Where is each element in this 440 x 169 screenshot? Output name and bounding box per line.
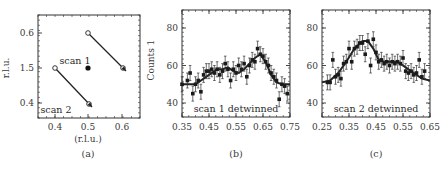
data-point-marker (363, 52, 367, 56)
data-point-marker (196, 79, 200, 83)
plot-frame (322, 10, 430, 117)
open-circle-marker (53, 66, 58, 71)
scan-2-arrow (55, 68, 92, 107)
data-point-marker (275, 79, 279, 83)
y-tick-label: 60 (167, 61, 179, 71)
x-tick-label: 0.55 (393, 122, 413, 132)
data-point-marker (194, 82, 198, 86)
panel-label: (c) (370, 148, 383, 159)
data-point-marker (199, 90, 203, 94)
data-point-marker (283, 84, 287, 88)
panel-label: (a) (81, 148, 94, 159)
scan-annotation: scan 1 detwinned (194, 103, 279, 114)
x-tick-label: 0.4 (48, 122, 63, 132)
y-axis-label: Counts 1 (146, 40, 156, 81)
data-point-marker (272, 75, 276, 79)
x-axis-label: (r.l.u.) (74, 134, 102, 144)
data-point-marker (385, 60, 389, 64)
data-point-marker (186, 79, 190, 83)
data-point-marker (232, 67, 236, 71)
data-point-marker (409, 69, 413, 73)
data-point-marker (350, 60, 354, 64)
data-point-marker (245, 75, 249, 79)
data-point-marker (221, 69, 225, 73)
y-tick-label: 40 (307, 98, 319, 108)
y-tick-label: 1.5 (20, 63, 35, 73)
data-point-marker (269, 71, 273, 75)
data-point-marker (277, 97, 281, 101)
data-point-marker (369, 64, 373, 68)
data-point-marker (380, 58, 384, 62)
data-point-marker (331, 58, 335, 62)
data-point-marker (372, 37, 376, 41)
x-tick-label: 0.35 (172, 122, 192, 132)
data-point-marker (202, 73, 206, 77)
data-point-marker (226, 67, 230, 71)
y-tick-label: 40 (167, 98, 179, 108)
data-point-marker (218, 73, 222, 77)
data-point-marker (215, 67, 219, 71)
data-point-marker (191, 92, 195, 96)
data-point-marker (240, 67, 244, 71)
y-tick-label: 0.6 (20, 28, 35, 38)
data-point-marker (286, 92, 290, 96)
open-circle-marker (86, 31, 91, 36)
data-point-marker (399, 62, 403, 66)
data-point-marker (213, 71, 217, 75)
data-point-marker (256, 47, 260, 51)
scan-2-label: scan 2 (40, 104, 71, 115)
data-point-marker (223, 62, 227, 66)
data-point-marker (420, 75, 424, 79)
y-tick-label: 80 (167, 23, 179, 33)
data-point-marker (248, 64, 252, 68)
scan-1-label: scan 1 (59, 55, 90, 66)
data-point-marker (328, 81, 332, 85)
y-axis-label: r.l.u. (1, 58, 11, 79)
data-point-marker (267, 64, 271, 68)
figure: 0.40.50.60.61.50.4r.l.u.(r.l.u.)(a)scan … (0, 0, 440, 169)
data-point-marker (336, 73, 340, 77)
y-tick-label: 60 (307, 61, 319, 71)
panel-b: 0.350.450.550.650.75406080Counts 1scan 1… (146, 10, 300, 159)
panel-a: 0.40.50.60.61.50.4r.l.u.(r.l.u.)(a)scan … (1, 15, 140, 159)
data-point-marker (253, 60, 257, 64)
x-tick-label: 0.45 (199, 122, 219, 132)
data-point-marker (180, 82, 184, 86)
data-point-marker (401, 56, 405, 60)
panel-label: (b) (229, 148, 243, 159)
y-tick-label: 0.4 (20, 98, 35, 108)
data-point-marker (210, 67, 214, 71)
data-point-marker (345, 60, 349, 64)
x-tick-label: 0.25 (312, 122, 332, 132)
data-point-marker (423, 69, 427, 73)
scan-1-arrow (88, 33, 126, 71)
x-tick-label: 0.5 (81, 122, 96, 132)
scan-1-point (85, 65, 90, 70)
scan-annotation: scan 2 detwinned (334, 103, 419, 114)
data-point-marker (417, 58, 421, 62)
data-point-marker (415, 71, 419, 75)
x-tick-label: 0.35 (339, 122, 359, 132)
data-point-marker (347, 47, 351, 51)
data-point-marker (388, 64, 392, 68)
data-point-marker (242, 62, 246, 66)
data-point-marker (374, 51, 378, 55)
data-point-marker (366, 39, 370, 43)
y-tick-label: 80 (307, 23, 319, 33)
panel-c: 0.250.350.450.550.65406080scan 2 detwinn… (307, 10, 440, 159)
x-tick-label: 0.45 (366, 122, 386, 132)
plot-frame (182, 10, 290, 117)
data-point-marker (355, 45, 359, 49)
x-tick-label: 0.6 (115, 122, 130, 132)
x-tick-label: 0.65 (253, 122, 273, 132)
data-point-marker (264, 60, 268, 64)
data-point-marker (234, 71, 238, 75)
data-point-marker (237, 64, 241, 68)
x-tick-label: 0.65 (420, 122, 440, 132)
data-point-marker (361, 41, 365, 45)
x-tick-label: 0.75 (280, 122, 300, 132)
data-point-marker (188, 71, 192, 75)
data-point-marker (339, 77, 343, 81)
x-tick-label: 0.55 (226, 122, 246, 132)
data-point-marker (261, 54, 265, 58)
